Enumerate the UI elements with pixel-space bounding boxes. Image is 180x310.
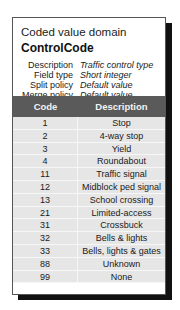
description-cell: Bells & lights: [78, 232, 165, 244]
description-cell: Crossbuck: [78, 219, 165, 231]
table-row: 31Crossbuck: [13, 219, 165, 232]
code-cell: 1: [13, 117, 78, 129]
table-row: 13School crossing: [13, 194, 165, 207]
table-row: 99None: [13, 271, 165, 284]
card-title: Coded value domain: [21, 26, 127, 38]
coded-value-domain-card: Coded value domain ControlCode Descripti…: [12, 17, 166, 295]
table-row: 11Traffic signal: [13, 168, 165, 181]
code-cell: 12: [13, 181, 78, 193]
code-cell: 33: [13, 245, 78, 257]
table-row: 3Yield: [13, 143, 165, 156]
table-row: 88Unknown: [13, 258, 165, 271]
code-cell: 13: [13, 194, 78, 206]
domain-name: ControlCode: [21, 41, 94, 55]
description-cell: Traffic signal: [78, 168, 165, 180]
column-header-code: Code: [13, 101, 78, 112]
description-cell: Stop: [78, 117, 165, 129]
property-field-type: Field type Short integer: [13, 70, 165, 80]
table-row: 12Midblock ped signal: [13, 181, 165, 194]
table-body: 1Stop 24-way stop 3Yield 4Roundabout 11T…: [13, 117, 165, 283]
description-cell: None: [78, 271, 165, 283]
property-label: Split policy: [13, 80, 73, 90]
description-cell: 4-way stop: [78, 130, 165, 142]
property-value: Traffic control type: [73, 60, 153, 70]
column-header-description: Description: [78, 101, 165, 112]
property-label: Description: [13, 60, 73, 70]
property-value: Short integer: [73, 70, 132, 80]
table-row: 24-way stop: [13, 130, 165, 143]
table-row: 33Bells, lights & gates: [13, 245, 165, 258]
code-cell: 88: [13, 258, 78, 270]
code-cell: 11: [13, 168, 78, 180]
property-description: Description Traffic control type: [13, 60, 165, 70]
description-cell: Limited-access: [78, 207, 165, 219]
domain-properties: Description Traffic control type Field t…: [13, 60, 165, 100]
description-cell: Yield: [78, 143, 165, 155]
code-cell: 32: [13, 232, 78, 244]
code-cell: 4: [13, 155, 78, 167]
description-cell: Unknown: [78, 258, 165, 270]
description-cell: Midblock ped signal: [78, 181, 165, 193]
code-cell: 31: [13, 219, 78, 231]
table-row: 32Bells & lights: [13, 232, 165, 245]
property-label: Field type: [13, 70, 73, 80]
description-cell: Bells, lights & gates: [78, 245, 165, 257]
code-cell: 2: [13, 130, 78, 142]
code-cell: 99: [13, 271, 78, 283]
code-cell: 3: [13, 143, 78, 155]
description-cell: School crossing: [78, 194, 165, 206]
property-value: Default value: [73, 80, 133, 90]
table-row: 4Roundabout: [13, 155, 165, 168]
code-cell: 21: [13, 207, 78, 219]
description-cell: Roundabout: [78, 155, 165, 167]
table-row: 1Stop: [13, 117, 165, 130]
table-header: Code Description: [13, 96, 165, 117]
table-row: 21Limited-access: [13, 207, 165, 220]
property-split-policy: Split policy Default value: [13, 80, 165, 90]
